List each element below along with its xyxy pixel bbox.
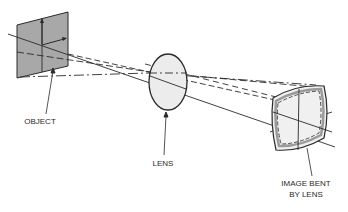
- bent-image: [272, 86, 332, 151]
- lens-label: LENS: [153, 159, 174, 168]
- image-label-line1: IMAGE BENT: [281, 179, 330, 188]
- image-label-line2: BY LENS: [289, 190, 323, 199]
- object-plane: [17, 12, 68, 78]
- object-label: OBJECT: [24, 117, 56, 126]
- lens-distortion-diagram: OBJECT LENS IMAGE BENT BY LENS: [0, 0, 348, 212]
- lens: [149, 54, 187, 110]
